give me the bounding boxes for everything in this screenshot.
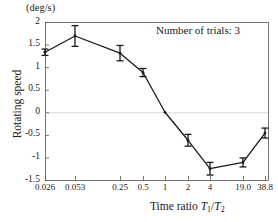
data-point-marker [74, 35, 77, 38]
data-point-marker [44, 51, 47, 54]
x-tick-label: 38.8 [257, 182, 273, 192]
x-tick-label: 4 [208, 182, 213, 192]
y-tick-label: 1 [14, 61, 40, 71]
y-tick-label: 1.5 [14, 38, 40, 48]
data-point-marker [264, 132, 267, 135]
y-tick-label: 0.5 [14, 83, 40, 93]
x-tick-label: 19.0 [235, 182, 251, 192]
data-point-marker [164, 111, 167, 114]
y-tick-label: 2 [14, 16, 40, 26]
x-tick-label: 2 [186, 182, 191, 192]
y-tick-label: -0.5 [14, 128, 40, 138]
x-tick-label: 0.053 [65, 182, 85, 192]
data-point-marker [209, 167, 212, 170]
x-tick-label: 0.25 [112, 182, 128, 192]
x-tick-label: 0.026 [35, 182, 55, 192]
x-tick-label: 0.5 [137, 182, 148, 192]
data-point-marker [142, 71, 145, 74]
figure-canvas: (deg/s) Rotating speed Number of trials:… [0, 0, 278, 222]
y-tick-label: 0 [14, 106, 40, 116]
data-point-marker [187, 139, 190, 142]
y-tick-label: -1 [14, 151, 40, 161]
data-point-marker [242, 161, 245, 164]
plot-frame [46, 23, 269, 181]
data-point-marker [119, 52, 122, 55]
x-tick-label: 1 [163, 182, 168, 192]
data-line [45, 36, 265, 169]
